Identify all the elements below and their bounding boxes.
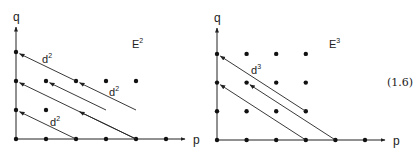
page-title-label: E2 bbox=[132, 37, 143, 50]
differential-arrow bbox=[80, 112, 136, 139]
lattice-point bbox=[274, 52, 278, 56]
differential-label: d2 bbox=[50, 115, 60, 128]
lattice-point bbox=[215, 80, 219, 84]
differential-arrow bbox=[80, 83, 136, 110]
lattice-point bbox=[134, 79, 138, 83]
lattice-point bbox=[104, 137, 108, 141]
lattice-point bbox=[244, 109, 248, 113]
lattice-point bbox=[44, 137, 48, 141]
lattice-point bbox=[164, 137, 168, 141]
p-axis-label: p bbox=[393, 134, 400, 148]
lattice-point bbox=[244, 52, 248, 56]
q-axis-label: q bbox=[13, 10, 20, 24]
diagram-e3-page: pqE3d3 bbox=[214, 11, 400, 148]
lattice-point bbox=[274, 80, 278, 84]
lattice-point bbox=[14, 79, 18, 83]
lattice-point bbox=[44, 108, 48, 112]
lattice-point bbox=[215, 52, 219, 56]
lattice-point bbox=[304, 80, 308, 84]
lattice-point bbox=[14, 137, 18, 141]
differential-arrow bbox=[50, 83, 106, 110]
lattice-point bbox=[44, 79, 48, 83]
lattice-point bbox=[244, 80, 248, 84]
spectral-sequence-diagram: pqE2d2d2d2 pqE3d3 (1.6) bbox=[0, 0, 419, 152]
q-axis-label: q bbox=[214, 11, 221, 25]
lattice-point bbox=[14, 108, 18, 112]
differential-arrow bbox=[220, 56, 305, 111]
lattice-point bbox=[215, 138, 219, 142]
diagram-e2-page: pqE2d2d2d2 bbox=[13, 10, 200, 147]
differential-arrow bbox=[20, 112, 76, 139]
lattice-point bbox=[104, 79, 108, 83]
differential-label: d3 bbox=[251, 63, 261, 76]
differential-label: d2 bbox=[109, 85, 119, 98]
page-title-label: E3 bbox=[329, 37, 340, 50]
lattice-point bbox=[14, 50, 18, 54]
lattice-point bbox=[244, 138, 248, 142]
lattice-point bbox=[363, 138, 367, 142]
lattice-point bbox=[274, 109, 278, 113]
equation-number: (1.6) bbox=[387, 76, 413, 89]
differential-label: d2 bbox=[42, 52, 52, 65]
lattice-point bbox=[274, 138, 278, 142]
lattice-point bbox=[215, 109, 219, 113]
lattice-point bbox=[304, 52, 308, 56]
p-axis-label: p bbox=[193, 133, 200, 147]
